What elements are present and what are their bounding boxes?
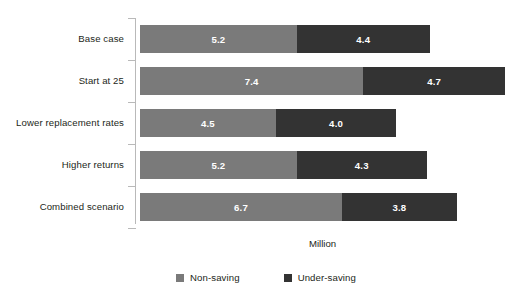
legend-item[interactable]: Non-saving xyxy=(176,272,240,283)
category-label: Higher returns xyxy=(0,144,124,186)
bar-segment-non-saving[interactable]: 7.4 xyxy=(140,67,363,95)
chart-row: Higher returns5.24.3 xyxy=(0,144,532,186)
chart-row: Start at 257.44.7 xyxy=(0,60,532,102)
legend-swatch-icon xyxy=(176,274,184,282)
category-label: Base case xyxy=(0,18,124,60)
bar-segment-under-saving[interactable]: 4.0 xyxy=(276,109,397,137)
stacked-bar[interactable]: 4.54.0 xyxy=(140,109,396,137)
legend-label: Under-saving xyxy=(298,272,356,283)
bar-segment-non-saving[interactable]: 5.2 xyxy=(140,151,297,179)
stacked-bar[interactable]: 5.24.3 xyxy=(140,151,427,179)
bar-segment-non-saving[interactable]: 4.5 xyxy=(140,109,276,137)
bar-segment-under-saving[interactable]: 3.8 xyxy=(342,193,457,221)
plot-area: Base case5.24.4Start at 257.44.7Lower re… xyxy=(0,12,532,230)
chart-row: Combined scenario6.73.8 xyxy=(0,186,532,228)
category-label: Combined scenario xyxy=(0,186,124,228)
category-label: Start at 25 xyxy=(0,60,124,102)
bar-segment-non-saving[interactable]: 5.2 xyxy=(140,25,297,53)
stacked-bar[interactable]: 7.44.7 xyxy=(140,67,505,95)
legend-label: Non-saving xyxy=(190,272,240,283)
chart-legend: Non-savingUnder-saving xyxy=(0,272,532,283)
legend-swatch-icon xyxy=(284,274,292,282)
stacked-bar[interactable]: 5.24.4 xyxy=(140,25,430,53)
bar-segment-non-saving[interactable]: 6.7 xyxy=(140,193,342,221)
axis-tick xyxy=(128,228,136,229)
stacked-bar[interactable]: 6.73.8 xyxy=(140,193,457,221)
stacked-bar-chart: Base case5.24.4Start at 257.44.7Lower re… xyxy=(0,0,532,302)
category-label: Lower replacement rates xyxy=(0,102,124,144)
x-axis-title: Million xyxy=(140,238,505,249)
bar-segment-under-saving[interactable]: 4.3 xyxy=(297,151,427,179)
chart-row: Base case5.24.4 xyxy=(0,18,532,60)
chart-row: Lower replacement rates4.54.0 xyxy=(0,102,532,144)
bar-segment-under-saving[interactable]: 4.4 xyxy=(297,25,430,53)
legend-item[interactable]: Under-saving xyxy=(284,272,356,283)
bar-segment-under-saving[interactable]: 4.7 xyxy=(363,67,505,95)
